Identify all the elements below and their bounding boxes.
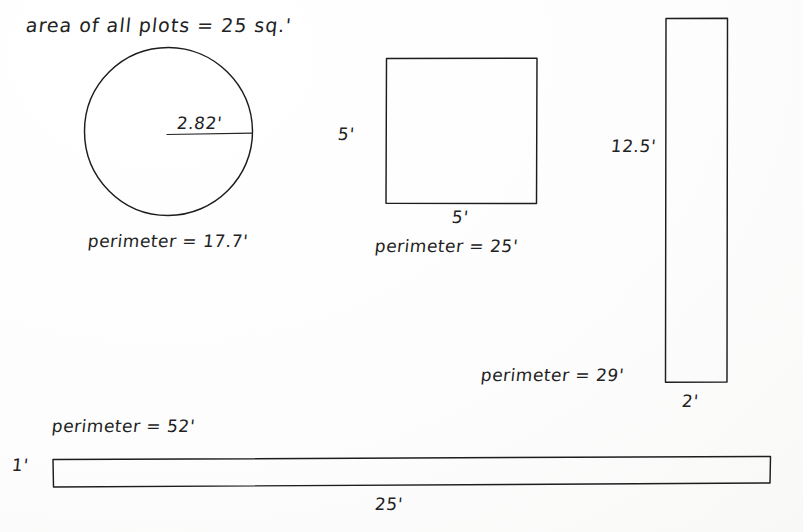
long-rectangle-height-label: 1': [11, 455, 30, 475]
circle-perimeter-label: perimeter = 17.7': [87, 231, 249, 251]
circle-radius-line: [167, 133, 252, 134]
worksheet-canvas: area of all plots = 25 sq.' 2.82' perime…: [0, 0, 803, 532]
long-rectangle-width-label: 25': [374, 494, 404, 514]
circle-outline: [85, 48, 253, 216]
tall-rectangle-width-label: 2': [681, 391, 700, 411]
tall-rectangle-outline: [666, 18, 728, 382]
square-perimeter-label: perimeter = 25': [374, 236, 519, 256]
long-rectangle-perimeter-label: perimeter = 52': [51, 416, 196, 436]
tall-rectangle-height-label: 12.5': [610, 136, 657, 156]
tall-rectangle-perimeter-label: perimeter = 29': [480, 365, 625, 385]
square-left-side-label: 5': [337, 124, 356, 144]
square-outline: [386, 58, 537, 203]
page-title: area of all plots = 25 sq.': [25, 14, 293, 36]
square-bottom-side-label: 5': [451, 207, 470, 227]
figures-drawing-layer: [0, 0, 803, 532]
circle-radius-label: 2.82': [176, 113, 223, 133]
long-rectangle-outline: [53, 457, 771, 488]
